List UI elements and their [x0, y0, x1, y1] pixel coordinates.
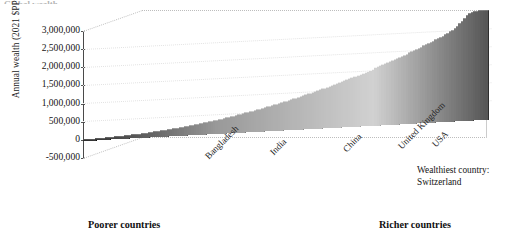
bar [485, 10, 489, 120]
chart-figure: Global wealth Annual wealth (2021 $PPP) … [0, 0, 512, 239]
footer-label-poorer: Poorer countries [88, 219, 160, 230]
annotation-wealthiest-line1: Wealthiest country: [417, 165, 489, 177]
annotation-wealthiest-line2: Switzerland [417, 177, 461, 189]
footer-label-richer: Richer countries [379, 219, 451, 230]
bar-series [0, 0, 512, 239]
